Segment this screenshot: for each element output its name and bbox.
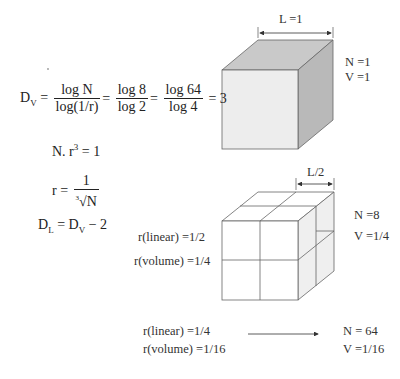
numerator: log 64 [164, 82, 203, 99]
cube-eight [222, 192, 334, 300]
dv-result: = 3 [208, 91, 226, 106]
root-n: √N [79, 194, 97, 209]
cube-single [222, 40, 333, 149]
fraction-logn: log N log(1/r) [54, 82, 101, 115]
dv-symbol: D [20, 90, 30, 105]
dl-mid: = D [54, 217, 79, 232]
formula-r: r = 1 3√N [52, 173, 101, 210]
r-lhs: r = [52, 183, 72, 198]
label-r-volume-quarter: r(volume) =1/4 [134, 254, 210, 269]
label-l1: L =1 [279, 12, 303, 27]
nr-rhs: = 1 [78, 144, 100, 159]
denominator: log 2 [116, 99, 148, 115]
numerator: log N [54, 82, 101, 99]
label-r-volume-sixteenth: r(volume) =1/16 [143, 342, 225, 357]
dv-subscript: V [30, 97, 37, 107]
numerator: log 8 [116, 82, 148, 99]
denominator: log(1/r) [54, 99, 101, 115]
dl-rhs: − 2 [85, 217, 107, 232]
formula-dv: DV = log N log(1/r) = log 8 log 2 = log … [20, 82, 227, 115]
numerator: 1 [74, 173, 99, 190]
stray-dot [47, 68, 49, 70]
fraction-log64: log 64 log 4 [164, 82, 203, 115]
fraction-log8: log 8 log 2 [116, 82, 148, 115]
label-r-linear-half: r(linear) =1/2 [138, 230, 205, 245]
denominator: log 4 [164, 99, 203, 115]
label-n8: N =8 [354, 208, 379, 223]
label-v1: V =1 [345, 70, 370, 85]
label-n1: N =1 [345, 55, 370, 70]
dl-symbol: D [38, 217, 48, 232]
formula-nr3: N. r3 = 1 [52, 142, 100, 160]
denominator: 3√N [74, 190, 99, 210]
label-l2: L/2 [307, 165, 324, 180]
label-v-quarter: V =1/4 [354, 229, 389, 244]
nr-text: N. r [52, 144, 74, 159]
fraction-r: 1 3√N [74, 173, 99, 210]
label-r-linear-quarter: r(linear) =1/4 [143, 324, 210, 339]
label-v-sixteenth: V =1/16 [343, 342, 384, 357]
formula-dl: DL = DV − 2 [38, 217, 107, 235]
label-n64: N = 64 [343, 324, 378, 339]
dimension-arrow-l1 [258, 27, 333, 38]
